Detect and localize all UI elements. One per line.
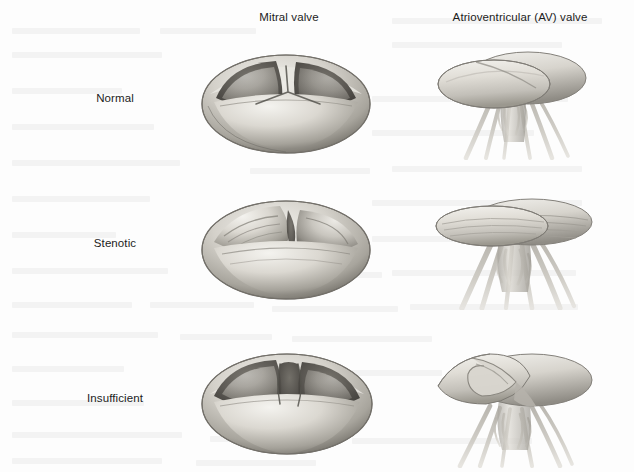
valve-comparison-figure: Mitral valve Atrioventricular (AV) valve… [0, 0, 634, 472]
illustration-av-valve-stenotic [432, 188, 596, 310]
row-label-insufficient: Insufficient [40, 392, 190, 404]
illustration-av-valve-insufficient [432, 342, 596, 468]
illustration-mitral-valve-normal [200, 44, 372, 156]
column-header-mitral-valve: Mitral valve [208, 11, 370, 23]
row-label-normal: Normal [40, 92, 190, 104]
illustration-mitral-valve-insufficient [200, 344, 374, 460]
illustration-av-valve-normal [432, 42, 592, 160]
row-label-stenotic: Stenotic [40, 237, 190, 249]
column-header-av-valve: Atrioventricular (AV) valve [430, 11, 610, 23]
illustration-mitral-valve-stenotic [200, 190, 372, 302]
